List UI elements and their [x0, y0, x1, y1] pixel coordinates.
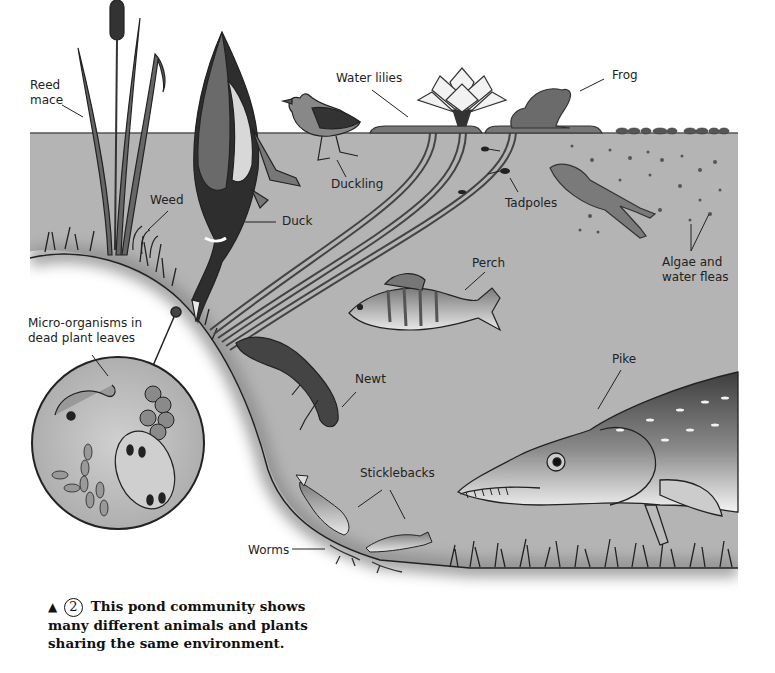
water-flea-icons — [616, 128, 729, 134]
label-water-lilies: Water lilies — [336, 71, 402, 86]
figure-number-badge: 2 — [64, 598, 83, 617]
label-micro-line2: dead plant leaves — [28, 331, 142, 346]
label-tadpoles: Tadpoles — [505, 196, 557, 211]
label-perch: Perch — [472, 256, 505, 271]
label-algae-water-fleas: Algae and water fleas — [662, 255, 729, 285]
figure-caption: ▲ 2 This pond community shows many diffe… — [48, 598, 308, 652]
frog-icon — [511, 89, 571, 128]
triangle-marker-icon: ▲ — [48, 600, 57, 614]
label-duck: Duck — [282, 214, 312, 229]
label-newt: Newt — [355, 372, 386, 387]
label-sticklebacks: Sticklebacks — [360, 466, 435, 481]
label-reed-mace: Reed mace — [30, 78, 63, 108]
label-algae-line2: water fleas — [662, 270, 729, 285]
caption-line2: many different animals and plants — [48, 617, 308, 633]
label-algae-line1: Algae and — [662, 255, 729, 270]
pond-community-figure: Reed mace Weed Duck Duckling Water lilie… — [0, 0, 775, 673]
label-micro-organisms: Micro-organisms in dead plant leaves — [28, 316, 142, 346]
label-frog: Frog — [612, 68, 638, 83]
label-weed: Weed — [150, 193, 184, 208]
label-reed-mace-line1: Reed — [30, 78, 63, 93]
label-micro-line1: Micro-organisms in — [28, 316, 142, 331]
label-worms: Worms — [248, 543, 289, 558]
label-reed-mace-line2: mace — [30, 93, 63, 108]
label-duckling: Duckling — [331, 177, 383, 192]
label-pike: Pike — [612, 352, 636, 367]
caption-line3: sharing the same environment. — [48, 635, 285, 651]
caption-line1: This pond community shows — [91, 598, 306, 614]
